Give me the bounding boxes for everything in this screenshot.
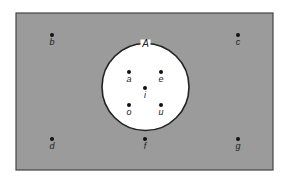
point-c-label: c xyxy=(236,37,241,47)
point-b-label: b xyxy=(49,37,54,47)
point-u-label: u xyxy=(158,107,163,117)
point-o-label: o xyxy=(126,107,131,117)
venn-diagram: A bcaeioudfg xyxy=(0,0,288,179)
set-a-label: A xyxy=(141,38,149,49)
point-e-label: e xyxy=(158,74,163,84)
point-g-label: g xyxy=(235,141,240,151)
point-a-label: a xyxy=(126,74,131,84)
